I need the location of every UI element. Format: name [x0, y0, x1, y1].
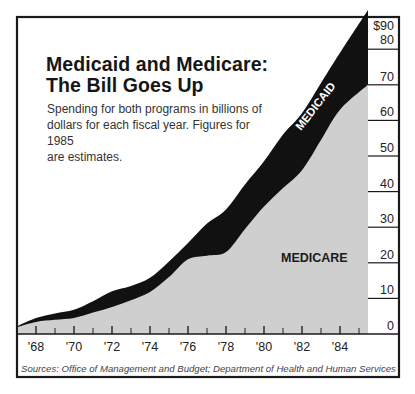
- y-tick-label: 30: [380, 212, 394, 226]
- x-tick-label: '80: [256, 340, 272, 354]
- medicare-label: MEDICARE: [281, 251, 348, 265]
- y-tick-label: 20: [380, 248, 394, 262]
- y-tick-label: 40: [380, 177, 394, 191]
- x-tick-label: '78: [218, 340, 234, 354]
- y-tick-label: 70: [380, 70, 394, 84]
- y-tick-label: 10: [380, 283, 394, 297]
- x-tick-label: '68: [28, 340, 44, 354]
- title-line-2: The Bill Goes Up: [46, 75, 268, 96]
- subtitle-line-1: Spending for both programs in billions o…: [47, 101, 277, 117]
- y-tick-label: 60: [380, 105, 394, 119]
- y-tick-label: 80: [380, 33, 394, 47]
- y-tick-label: 0: [387, 319, 394, 333]
- title-line-1: Medicaid and Medicare:: [46, 54, 268, 75]
- source-note: Sources: Office of Management and Budget…: [21, 363, 396, 374]
- subtitle-line-2: dollars for each fiscal year. Figures fo…: [47, 117, 277, 149]
- y-axis: 01020304050607080$90: [368, 19, 399, 333]
- subtitle-line-3: are estimates.: [47, 149, 277, 165]
- x-tick-label: '74: [142, 340, 158, 354]
- x-tick-label: '76: [180, 340, 196, 354]
- chart-title: Medicaid and Medicare: The Bill Goes Up: [46, 54, 268, 96]
- y-tick-label: $90: [373, 19, 394, 33]
- x-tick-label: '84: [332, 340, 348, 354]
- x-tick-label: '82: [294, 340, 310, 354]
- x-tick-label: '72: [104, 340, 120, 354]
- y-tick-label: 50: [380, 141, 394, 155]
- chart-subtitle: Spending for both programs in billions o…: [47, 101, 277, 165]
- x-tick-label: '70: [66, 340, 82, 354]
